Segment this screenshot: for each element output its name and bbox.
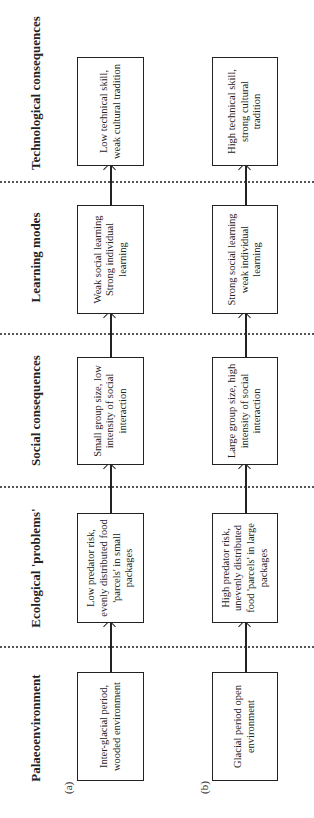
- arrow-right-icon: [245, 314, 247, 357]
- box-technological-b: High technical skill, strong cultural tr…: [212, 57, 278, 166]
- header-learning-modes: Learning modes: [28, 185, 44, 330]
- arrow-right-icon: [110, 465, 112, 513]
- arrow-right-icon: [245, 166, 247, 205]
- arrow-right-icon: [110, 314, 112, 357]
- arrow-right-icon: [245, 623, 247, 672]
- header-social-consequences: Social consequences: [28, 338, 44, 483]
- row-label-a: (a): [62, 782, 74, 794]
- box-learning-b: Strong social learning weak individual l…: [212, 205, 278, 314]
- column-divider: [0, 181, 314, 183]
- box-social-b: Large group size, high intensity of soci…: [212, 357, 278, 465]
- arrow-right-icon: [110, 623, 112, 672]
- flow-diagram: Palaeoenvironment Ecological 'problems' …: [0, 0, 314, 818]
- box-technological-a: Low technical skill, weak cultural tradi…: [77, 57, 144, 166]
- column-divider: [0, 333, 314, 335]
- column-divider: [0, 646, 314, 648]
- arrow-right-icon: [110, 166, 112, 205]
- arrow-right-icon: [245, 465, 247, 513]
- header-ecological-problems: Ecological 'problems': [28, 493, 44, 643]
- header-technological-consequences: Technological consequences: [28, 0, 44, 188]
- box-ecological-b: High predator risk, unevenly distributed…: [212, 513, 278, 623]
- header-palaeoenvironment: Palaeoenvironment: [28, 658, 44, 798]
- box-palaeoenvironment-b: Glacial period open environment: [212, 672, 278, 781]
- box-social-a: Small group size, low intensity of socia…: [77, 357, 144, 465]
- box-learning-a: Weak social learning Strong individual l…: [77, 205, 144, 314]
- box-ecological-a: Low predator risk, evenly distributed fo…: [77, 513, 144, 623]
- row-label-b: (b): [198, 781, 210, 794]
- box-palaeoenvironment-a: Inter-glacial period, wooded environment: [77, 672, 144, 781]
- column-divider: [0, 486, 314, 488]
